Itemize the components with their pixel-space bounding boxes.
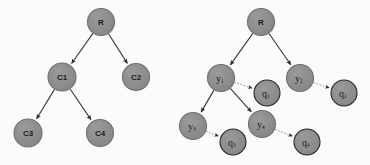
edge-R-R-to-R-y1 xyxy=(230,33,253,65)
node-l-r[interactable]: R xyxy=(88,9,115,36)
node-label: R xyxy=(258,18,264,27)
edge-R-y1-to-R-y4 xyxy=(230,88,251,112)
node-label-subscript: 3 xyxy=(233,142,236,148)
node-label: C3 xyxy=(23,129,34,138)
node-l-c4[interactable]: C4 xyxy=(87,120,114,147)
node-r-y4[interactable]: y4 xyxy=(249,111,276,138)
node-label-subscript: 2 xyxy=(344,93,347,99)
node-l-c3[interactable]: C3 xyxy=(14,119,42,147)
node-r-q2[interactable]: q2 xyxy=(331,80,357,106)
node-l-c1[interactable]: C1 xyxy=(48,63,76,91)
edge-R-y1-to-R-q1 xyxy=(234,82,252,88)
edge-R-R-to-R-y2 xyxy=(269,33,291,64)
node-r-q1[interactable]: q1 xyxy=(254,80,280,106)
node-label: R xyxy=(98,18,104,27)
node-r-r[interactable]: R xyxy=(248,9,275,36)
edge-R-y2-to-R-q2 xyxy=(313,83,329,88)
node-label-subscript: 3 xyxy=(193,126,196,132)
node-label-subscript: 1 xyxy=(221,78,224,84)
edge-R-y1-to-R-y3 xyxy=(201,90,214,112)
node-label: C4 xyxy=(95,129,106,138)
edge-R-y4-to-R-q4 xyxy=(275,129,293,136)
node-r-y3[interactable]: y3 xyxy=(180,113,207,140)
node-label: C2 xyxy=(131,73,142,82)
node-r-y2[interactable]: y2 xyxy=(287,65,314,92)
edge-L-C1-to-L-C4 xyxy=(70,89,91,120)
node-label: C1 xyxy=(57,73,68,82)
figure-canvas: RC1C2C3C4Ry1y2q1q2y3y4q3q4 xyxy=(0,0,370,165)
edge-L-C1-to-L-C3 xyxy=(37,89,55,118)
class-hierarchy-tree-nodes: RC1C2C3C4 xyxy=(14,9,150,148)
edge-R-y3-to-R-q3 xyxy=(206,131,219,136)
nodes-layer: RC1C2C3C4Ry1y2q1q2y3y4q3q4 xyxy=(14,9,357,156)
node-r-q3[interactable]: q3 xyxy=(220,129,246,155)
edge-L-R-to-L-C1 xyxy=(72,33,93,63)
node-label-subscript: 4 xyxy=(307,142,310,148)
node-label-subscript: 2 xyxy=(300,78,303,84)
tree-diagram-svg: RC1C2C3C4Ry1y2q1q2y3y4q3q4 xyxy=(0,0,370,165)
node-l-c2[interactable]: C2 xyxy=(123,64,150,91)
node-label-subscript: 1 xyxy=(267,93,270,99)
instance-query-tree-nodes: Ry1y2q1q2y3y4q3q4 xyxy=(180,9,358,156)
edge-L-R-to-L-C2 xyxy=(109,34,128,64)
node-r-y1[interactable]: y1 xyxy=(208,65,235,92)
node-r-q4[interactable]: q4 xyxy=(294,129,320,155)
node-label-subscript: 4 xyxy=(262,124,265,130)
